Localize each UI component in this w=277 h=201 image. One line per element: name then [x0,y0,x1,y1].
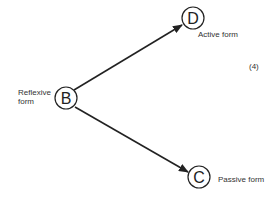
node-b-label-line2: form [18,97,51,106]
node-b-label: Reflexive form [18,88,51,106]
node-b-label-line1: Reflexive [18,88,51,97]
node-d-label: Active form [198,30,238,39]
equation-number: (4) [249,62,259,71]
node-b-letter: B [61,90,72,107]
node-d: D [182,7,204,29]
edge-b-to-c [75,107,188,172]
node-c-label: Passive form [218,175,264,184]
node-c: C [188,166,210,188]
edge-b-to-d [74,25,182,90]
node-b: B [55,87,77,109]
node-d-letter: D [187,10,199,27]
node-c-letter: C [193,169,205,186]
